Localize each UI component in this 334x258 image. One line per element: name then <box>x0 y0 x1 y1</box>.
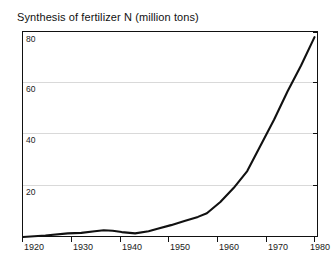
x-tick-mark-1950 <box>168 237 169 242</box>
x-axis-label-1970: 1970 <box>268 243 288 252</box>
x-axis-label-1960: 1960 <box>219 243 239 252</box>
x-axis-label-1920: 1920 <box>24 243 44 252</box>
x-tick-mark-1940 <box>120 237 121 242</box>
x-tick-mark-1920 <box>22 237 23 242</box>
chart-title: Synthesis of fertilizer N (million tons) <box>17 11 199 23</box>
plot-area: 80 60 40 20 <box>22 31 318 237</box>
x-axis-label-1950: 1950 <box>170 243 190 252</box>
x-tick-mark-1930 <box>71 237 72 242</box>
x-axis-label-1940: 1940 <box>122 243 142 252</box>
x-tick-mark-1960 <box>217 237 218 242</box>
x-tick-mark-1970 <box>266 237 267 242</box>
data-series-line <box>23 32 319 238</box>
chart-figure: Synthesis of fertilizer N (million tons)… <box>0 0 334 258</box>
x-axis-label-1980: 1980 <box>310 243 330 252</box>
x-axis-label-1930: 1930 <box>73 243 93 252</box>
